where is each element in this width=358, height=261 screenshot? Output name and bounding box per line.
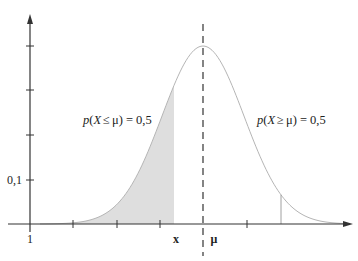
annotation-right: p(X≥μ) = 0,5 — [256, 113, 326, 127]
y-tick-label-0-1: 0,1 — [7, 173, 22, 187]
x-axis-arrow-icon — [343, 221, 353, 227]
normal-distribution-chart: 1 0,1 x μ p(X≤μ) = 0,5 p(X≥μ) = 0,5 — [0, 0, 358, 261]
annotation-left: p(X≤μ) = 0,5 — [82, 113, 152, 127]
mu-label: μ — [211, 232, 218, 246]
y-axis-arrow-icon — [27, 14, 33, 24]
gaussian-curve — [40, 46, 350, 224]
shaded-area-left — [40, 85, 174, 224]
origin-label: 1 — [27, 232, 33, 246]
x-value-label: x — [173, 232, 179, 246]
